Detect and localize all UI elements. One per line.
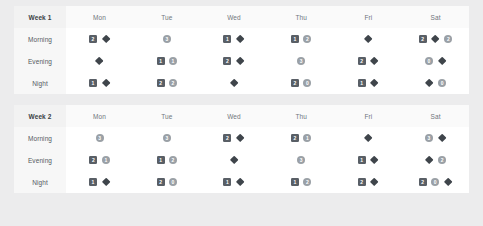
diamond-badge[interactable] [370,177,379,186]
day-header-thu[interactable]: Thu [268,105,335,127]
day-header-thu[interactable]: Thu [268,6,335,28]
circle-badge[interactable]: 1 [169,57,177,65]
schedule-cell[interactable]: 22 [402,28,469,50]
diamond-badge[interactable] [101,78,110,87]
schedule-cell[interactable] [66,50,133,72]
square-badge[interactable]: 2 [291,134,299,142]
day-header-sat[interactable]: Sat [402,6,469,28]
square-badge[interactable]: 2 [358,178,366,186]
schedule-cell[interactable] [200,72,267,94]
schedule-cell[interactable]: 3 [268,50,335,72]
circle-badge[interactable]: 2 [303,35,311,43]
square-badge[interactable]: 2 [223,134,231,142]
schedule-cell[interactable]: 1 [66,171,133,193]
square-badge[interactable]: 1 [89,178,97,186]
diamond-badge[interactable] [443,177,452,186]
schedule-cell[interactable]: 12 [133,149,200,171]
schedule-cell[interactable]: 0 [402,72,469,94]
circle-badge[interactable]: 0 [431,178,439,186]
diamond-badge[interactable] [370,56,379,65]
square-badge[interactable]: 1 [223,178,231,186]
schedule-cell[interactable]: 3 [268,149,335,171]
schedule-cell[interactable]: 1 [335,72,402,94]
diamond-badge[interactable] [431,34,440,43]
schedule-cell[interactable]: 3 [402,127,469,149]
circle-badge[interactable]: 2 [169,156,177,164]
square-badge[interactable]: 2 [89,35,97,43]
circle-badge[interactable]: 1 [303,134,311,142]
diamond-badge[interactable] [364,133,373,142]
circle-badge[interactable]: 2 [169,79,177,87]
square-badge[interactable]: 1 [358,156,366,164]
square-badge[interactable]: 1 [291,35,299,43]
schedule-cell[interactable]: 12 [268,28,335,50]
circle-badge[interactable]: 3 [96,134,104,142]
schedule-cell[interactable]: 20 [268,72,335,94]
day-header-sat[interactable]: Sat [402,105,469,127]
schedule-cell[interactable]: 2 [66,28,133,50]
schedule-cell[interactable]: 0 [402,50,469,72]
square-badge[interactable]: 2 [223,57,231,65]
circle-badge[interactable]: 3 [425,134,433,142]
diamond-badge[interactable] [236,133,245,142]
circle-badge[interactable]: 3 [163,35,171,43]
diamond-badge[interactable] [236,56,245,65]
square-badge[interactable]: 1 [223,35,231,43]
schedule-cell[interactable]: 1 [200,28,267,50]
schedule-cell[interactable]: 2 [335,171,402,193]
diamond-badge[interactable] [425,155,434,164]
square-badge[interactable]: 1 [291,178,299,186]
schedule-cell[interactable]: 3 [133,28,200,50]
square-badge[interactable]: 2 [358,57,366,65]
diamond-badge[interactable] [364,34,373,43]
diamond-badge[interactable] [425,78,434,87]
day-header-tue[interactable]: Tue [133,6,200,28]
circle-badge[interactable]: 1 [102,156,110,164]
circle-badge[interactable]: 0 [169,178,177,186]
day-header-wed[interactable]: Wed [200,6,267,28]
schedule-cell[interactable]: 2 [335,50,402,72]
day-header-fri[interactable]: Fri [335,105,402,127]
schedule-cell[interactable]: 1 [66,72,133,94]
diamond-badge[interactable] [437,133,446,142]
schedule-cell[interactable]: 22 [133,72,200,94]
schedule-cell[interactable]: 1 [200,171,267,193]
day-header-fri[interactable]: Fri [335,6,402,28]
day-header-mon[interactable]: Mon [66,6,133,28]
schedule-cell[interactable] [335,127,402,149]
schedule-cell[interactable]: 3 [133,127,200,149]
square-badge[interactable]: 2 [419,178,427,186]
diamond-badge[interactable] [370,155,379,164]
circle-badge[interactable]: 2 [303,178,311,186]
square-badge[interactable]: 2 [419,35,427,43]
schedule-cell[interactable]: 1 [335,149,402,171]
circle-badge[interactable]: 2 [444,35,452,43]
schedule-cell[interactable] [335,28,402,50]
square-badge[interactable]: 1 [89,79,97,87]
circle-badge[interactable]: 0 [303,79,311,87]
schedule-cell[interactable]: 11 [133,50,200,72]
square-badge[interactable]: 1 [358,79,366,87]
schedule-cell[interactable]: 20 [402,171,469,193]
diamond-badge[interactable] [101,177,110,186]
schedule-cell[interactable]: 2 [200,50,267,72]
diamond-badge[interactable] [95,56,104,65]
schedule-cell[interactable]: 21 [268,127,335,149]
square-badge[interactable]: 2 [157,178,165,186]
circle-badge[interactable]: 0 [438,79,446,87]
diamond-badge[interactable] [236,177,245,186]
schedule-cell[interactable] [200,149,267,171]
schedule-cell[interactable]: 12 [268,171,335,193]
schedule-cell[interactable]: 3 [66,127,133,149]
circle-badge[interactable]: 3 [297,57,305,65]
circle-badge[interactable]: 3 [163,134,171,142]
circle-badge[interactable]: 3 [297,156,305,164]
diamond-badge[interactable] [229,78,238,87]
day-header-mon[interactable]: Mon [66,105,133,127]
schedule-cell[interactable]: 21 [66,149,133,171]
diamond-badge[interactable] [101,34,110,43]
diamond-badge[interactable] [437,56,446,65]
circle-badge[interactable]: 2 [438,156,446,164]
schedule-cell[interactable]: 20 [133,171,200,193]
square-badge[interactable]: 1 [157,57,165,65]
